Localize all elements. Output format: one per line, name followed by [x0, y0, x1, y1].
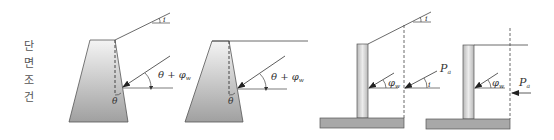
diagram-gravity-level: θ + φw θ — [185, 41, 308, 122]
cantilever-stem — [357, 44, 368, 118]
active-force-label: Pa — [439, 62, 451, 75]
gravity-wall-body — [69, 40, 128, 122]
force-angle-label: θ + φw — [158, 69, 192, 81]
cantilever-stem — [463, 45, 474, 119]
active-pressure-arrow — [405, 71, 437, 88]
active-force-label: Pa — [518, 76, 530, 89]
slope-angle-i: i — [163, 15, 166, 24]
force-angle-label: θ + φw — [271, 71, 305, 83]
sloped-backfill-line — [115, 13, 170, 40]
diagram-cantilever-level: φw Pa — [426, 28, 531, 129]
wall-angle-theta: θ — [228, 96, 234, 106]
cantilever-base — [426, 119, 510, 129]
retaining-wall-diagrams: i θ + φw θ θ + φw θ i φw i Pa — [0, 0, 554, 140]
diagram-gravity-sloped: i θ + φw θ — [69, 13, 192, 122]
wall-angle-theta: θ — [112, 96, 118, 106]
wall-friction-label: φw — [492, 77, 505, 89]
gravity-wall-body — [185, 41, 243, 122]
slope-angle-i: i — [425, 14, 428, 23]
wall-friction-label: φw — [388, 77, 401, 89]
cantilever-base — [320, 118, 404, 128]
force-angle-i: i — [428, 80, 431, 89]
diagram-cantilever-sloped: i φw i Pa — [320, 12, 451, 128]
sloped-backfill-line — [368, 12, 431, 44]
